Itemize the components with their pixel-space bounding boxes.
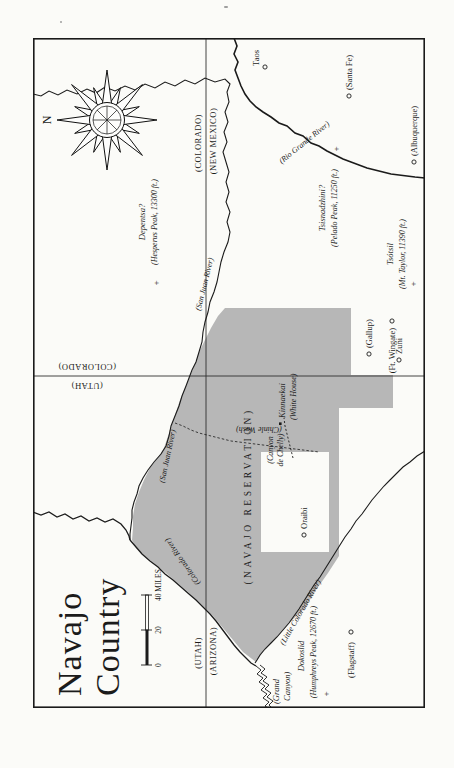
rotated-map-container: Navajo Country 0 20 40 MILES N (COLORADO…	[33, 38, 425, 708]
oraibi-label: Oraibi	[299, 507, 309, 529]
navajo-country-map: Navajo Country 0 20 40 MILES N (COLORADO…	[33, 38, 425, 708]
label-utah-west: (UTAH)	[193, 637, 203, 669]
white-house-detail: (White House)	[289, 373, 298, 420]
gallup-label: (Gallup)	[364, 319, 374, 348]
label-colorado-fourcorners: (COLORADO)	[58, 362, 116, 372]
white-house-name: Kinnaekai	[277, 382, 287, 419]
santa-fe-label: (Santa Fe)	[344, 55, 354, 90]
albuquerque-label: (Albuquerque)	[409, 106, 419, 156]
map-title-line2: Country	[89, 578, 126, 696]
label-new-mexico: (NEW MEXICO)	[208, 108, 218, 175]
compass-spokes-icon	[93, 106, 121, 134]
zuni-marker	[397, 358, 401, 362]
scan-speck	[60, 21, 62, 23]
pelado-name: Tsisnadzhini?	[317, 184, 327, 231]
grand-canyon-line1: (Grand	[271, 678, 281, 704]
ft-wingate-marker	[390, 319, 394, 323]
label-utah-fourcorners: (UTAH)	[71, 381, 103, 391]
map-title: Navajo Country	[51, 578, 126, 696]
taos-marker	[263, 65, 267, 69]
hesperus-detail: (Hesperus Peak, 13300 ft.)	[150, 179, 159, 265]
hesperus-name: Depentsa?	[137, 203, 147, 241]
scanned-book-page: { "page": { "bg": "#fbfbf8" }, "map": { …	[0, 0, 454, 768]
santa-fe-marker	[347, 94, 351, 98]
canyon-de-chelly-line1: (Canyon	[266, 436, 275, 464]
scale-tick-20: 20	[154, 626, 163, 634]
humphreys-peak-marker: +	[321, 691, 331, 696]
scale-tick-40-miles: 40 MILES	[154, 569, 163, 601]
colorado-river-upper	[33, 512, 130, 540]
taos-label: Taos	[251, 50, 261, 66]
white-house-marker	[279, 422, 282, 425]
pelado-peak-marker: +	[331, 146, 341, 151]
grand-canyon-label: (Grand Canyon)	[271, 672, 292, 704]
scale-tick-0: 0	[154, 663, 163, 667]
scan-speck	[224, 6, 228, 8]
rio-grande-river	[234, 38, 425, 178]
mt-taylor-peak-marker: +	[408, 281, 418, 286]
pelado-detail: (Pelado Peak, 11250 ft.)	[330, 169, 339, 247]
chinle-wash-label: (Chinle Wash)	[236, 425, 282, 434]
humphreys-detail: (Humphreys Peak, 12670 ft.)	[309, 605, 318, 698]
compass-rose	[57, 70, 157, 170]
canyon-de-chelly-line2: de Chelly)	[276, 433, 285, 466]
zuni-label: Zuni	[394, 337, 404, 354]
flagstaff-label: (Flagstaff)	[346, 642, 356, 678]
hopi-enclave	[261, 452, 329, 552]
gallup-marker	[367, 352, 371, 356]
albuquerque-marker	[412, 160, 416, 164]
label-colorado: (COLORADO)	[193, 114, 203, 172]
humphreys-name: Dokoslid	[296, 640, 306, 672]
mt-taylor-detail: (Mt. Taylor, 11390 ft.)	[398, 219, 407, 289]
scale-bar: 0 20 40 MILES	[141, 569, 163, 667]
grand-canyon-line2: Canyon)	[282, 672, 292, 701]
hesperus-peak-marker: +	[151, 280, 161, 285]
compass-north-label: N	[40, 115, 54, 124]
map-title-line1: Navajo	[51, 592, 88, 696]
san-juan-label-nm: (San Juan River)	[194, 256, 216, 311]
label-arizona: (ARIZONA)	[208, 627, 218, 675]
mt-taylor-name: Tsótsil	[385, 242, 395, 265]
flagstaff-marker	[349, 630, 353, 634]
